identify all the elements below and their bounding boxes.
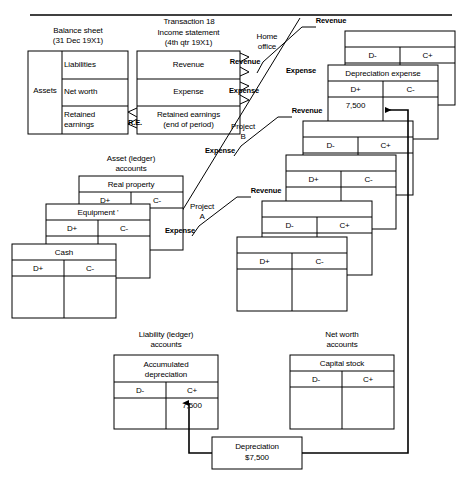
accumulated-depreciation-credit-value: 7,500 xyxy=(166,401,218,411)
pb-revenue-credit: C+ xyxy=(358,141,413,151)
equipment-debit: D+ xyxy=(46,224,98,234)
cash-credit: C- xyxy=(64,264,116,274)
project-b-expense-label: Expense xyxy=(199,146,241,156)
t-account-project-a-expense xyxy=(237,237,347,311)
equipment-title: Equipment ' xyxy=(46,208,150,218)
ho-expense-debit-value: 7,500 xyxy=(328,101,383,111)
project-a-revenue-label: Revenue xyxy=(245,186,287,196)
real-property-credit: C- xyxy=(131,196,183,206)
transaction-box-amount: $7,500 xyxy=(212,453,302,463)
pa-expense-credit: C- xyxy=(292,257,347,267)
cash-title: Cash xyxy=(12,248,116,258)
transaction-title: Transaction 18 xyxy=(143,17,235,27)
ho-expense-debit: D+ xyxy=(328,85,383,95)
pa-revenue-credit: C+ xyxy=(317,221,372,231)
pb-revenue-debit: D- xyxy=(303,141,358,151)
real-property-title: Real property xyxy=(79,180,183,190)
ho-expense-credit: C- xyxy=(383,85,438,95)
capital-stock-title: Capital stock xyxy=(290,359,394,369)
balance-sheet-caption: Balance sheet (31 Dec 19X1) xyxy=(28,26,128,45)
pa-revenue-debit: D- xyxy=(262,221,317,231)
net-worth-accounts-caption: Net worth accounts xyxy=(290,330,394,349)
project-a-expense-label: Expense xyxy=(159,226,201,236)
ho-revenue-credit: C+ xyxy=(400,51,455,61)
balance-sheet-assets: Assets xyxy=(28,86,62,96)
real-property-debit: D+ xyxy=(79,196,131,206)
re-connector-label: R.E. xyxy=(122,118,148,128)
balance-sheet-retained-earnings: Retained earnings xyxy=(64,110,126,129)
accumulated-depreciation-debit: D- xyxy=(114,386,166,396)
income-expense-connector-label: Expense xyxy=(224,86,264,96)
segment-label-project-a: Project A xyxy=(181,202,223,221)
income-statement-caption: Income statement (4th qtr 19X1) xyxy=(137,28,240,47)
asset-accounts-caption: Asset (ledger) accounts xyxy=(79,154,183,173)
accumulated-depreciation-credit: C+ xyxy=(166,386,218,396)
balance-sheet-liabilities: Liabilities xyxy=(64,60,126,70)
balance-sheet-net-worth: Net worth xyxy=(64,87,126,97)
liability-accounts-caption: Liability (ledger) accounts xyxy=(114,330,218,349)
cash-debit: D+ xyxy=(12,264,64,274)
capital-stock-debit: D- xyxy=(290,375,342,385)
segment-label-home-office: Home office xyxy=(246,32,288,51)
home-office-expense-label: Expense xyxy=(280,66,322,76)
ho-revenue-debit: D- xyxy=(345,51,400,61)
accounting-flow-diagram: Balance sheet (31 Dec 19X1) Transaction … xyxy=(0,0,456,478)
pb-expense-credit: C- xyxy=(341,175,396,185)
accumulated-depreciation-title: Accumulated depreciation xyxy=(114,360,218,379)
ho-expense-title: Depreciation expense xyxy=(328,69,438,79)
pa-expense-debit: D+ xyxy=(237,257,292,267)
transaction-box-title: Depreciation xyxy=(212,442,302,452)
pb-expense-debit: D+ xyxy=(286,175,341,185)
home-office-revenue-label: Revenue xyxy=(310,16,352,26)
project-b-revenue-label: Revenue xyxy=(286,106,328,116)
income-revenue-connector-label: Revenue xyxy=(225,57,265,67)
segment-label-project-b: Project B xyxy=(222,122,264,141)
capital-stock-credit: C+ xyxy=(342,375,394,385)
equipment-credit: C- xyxy=(98,224,150,234)
